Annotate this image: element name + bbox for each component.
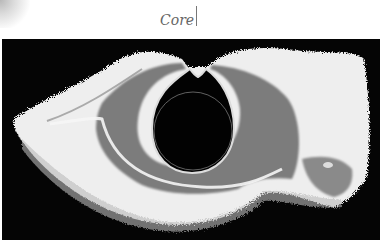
core-label: Core xyxy=(160,12,194,28)
corner-shadow xyxy=(0,0,30,28)
label-pointer-line xyxy=(196,6,197,26)
cross-section-micrograph xyxy=(2,39,380,240)
micrograph-drawing xyxy=(2,39,380,240)
bubble-feature xyxy=(323,162,333,168)
core-annotation: Core xyxy=(160,4,197,28)
